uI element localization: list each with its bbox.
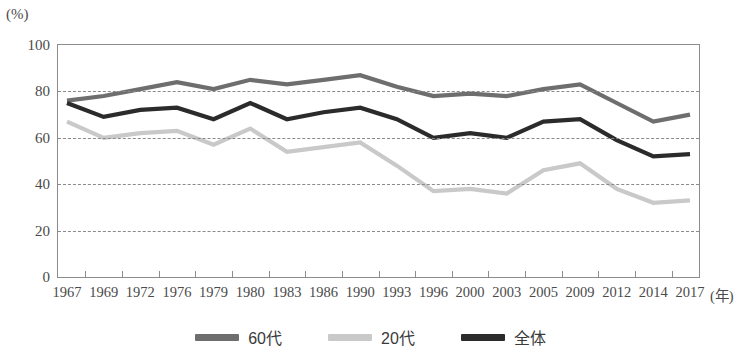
plot-area — [57, 44, 700, 278]
x-tick-label: 1976 — [162, 284, 191, 301]
x-tick-mark — [415, 271, 416, 278]
x-tick-label: 1980 — [236, 284, 265, 301]
x-tick-mark — [232, 271, 233, 278]
x-tick-label: 1969 — [89, 284, 118, 301]
series-lines — [58, 45, 699, 277]
x-axis-unit-label: (年) — [710, 284, 734, 305]
x-tick-mark — [525, 271, 526, 278]
series-line — [67, 103, 690, 156]
y-axis-tick-labels: 100806040200 — [0, 44, 50, 278]
x-tick-mark — [122, 271, 123, 278]
x-tick-mark — [342, 271, 343, 278]
x-tick-label: 1993 — [382, 284, 411, 301]
y-tick-label: 60 — [4, 129, 50, 146]
y-tick-label: 100 — [4, 37, 50, 54]
x-tick-mark — [195, 271, 196, 278]
x-tick-mark — [269, 271, 270, 278]
x-tick-label: 2012 — [602, 284, 631, 301]
series-line — [67, 122, 690, 203]
chart-legend: 60代20代全体 — [0, 322, 741, 352]
y-axis-unit-label: (%) — [6, 6, 29, 23]
x-tick-mark — [488, 271, 489, 278]
x-tick-label: 2014 — [639, 284, 668, 301]
x-tick-mark — [598, 271, 599, 278]
legend-label: 全体 — [514, 325, 546, 349]
legend-item[interactable]: 全体 — [461, 325, 546, 349]
x-tick-label: 1986 — [309, 284, 338, 301]
x-tick-label: 2009 — [566, 284, 595, 301]
x-axis-tick-marks — [57, 271, 700, 278]
legend-item[interactable]: 60代 — [195, 325, 282, 349]
gridline — [58, 138, 699, 139]
legend-label: 60代 — [248, 325, 282, 349]
x-tick-label: 2000 — [456, 284, 485, 301]
x-axis-tick-labels: (年) 196719691972197619791980198319861990… — [0, 284, 741, 306]
x-tick-label: 1990 — [346, 284, 375, 301]
x-tick-mark — [159, 271, 160, 278]
x-tick-mark — [562, 271, 563, 278]
y-tick-label: 20 — [4, 222, 50, 239]
gridline — [58, 184, 699, 185]
x-tick-label: 2003 — [492, 284, 521, 301]
x-tick-mark — [635, 271, 636, 278]
x-tick-label: 2017 — [676, 284, 705, 301]
x-tick-label: 1979 — [199, 284, 228, 301]
gridline — [58, 231, 699, 232]
legend-swatch-icon — [195, 334, 239, 341]
legend-swatch-icon — [461, 334, 505, 341]
x-tick-label: 1972 — [126, 284, 155, 301]
x-tick-mark — [85, 271, 86, 278]
legend-label: 20代 — [381, 325, 415, 349]
y-tick-label: 40 — [4, 176, 50, 193]
x-tick-label: 1967 — [53, 284, 82, 301]
legend-item[interactable]: 20代 — [328, 325, 415, 349]
legend-swatch-icon — [328, 334, 372, 341]
line-chart: (%) 100806040200 (年) 1967196919721976197… — [0, 0, 741, 364]
gridline — [58, 91, 699, 92]
x-tick-mark — [379, 271, 380, 278]
x-tick-mark — [305, 271, 306, 278]
x-tick-mark — [672, 271, 673, 278]
y-tick-label: 80 — [4, 83, 50, 100]
x-tick-mark — [452, 271, 453, 278]
x-tick-label: 2005 — [529, 284, 558, 301]
y-tick-label: 0 — [4, 269, 50, 286]
x-tick-label: 1983 — [272, 284, 301, 301]
x-tick-label: 1996 — [419, 284, 448, 301]
